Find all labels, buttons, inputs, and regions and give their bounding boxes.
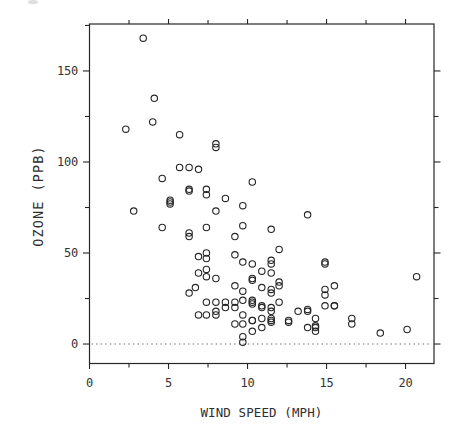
data-point: [249, 179, 255, 185]
tick-label: 20: [399, 376, 413, 390]
data-point: [259, 284, 265, 290]
data-point: [150, 119, 156, 125]
data-point: [203, 299, 209, 305]
data-point: [240, 321, 246, 327]
tick-label: 0: [71, 337, 78, 351]
data-point: [232, 321, 238, 327]
data-point: [159, 224, 165, 230]
data-point: [268, 270, 274, 276]
tick-label: 0: [86, 376, 93, 390]
data-point: [232, 252, 238, 258]
data-point: [268, 226, 274, 232]
data-point: [186, 164, 192, 170]
data-point: [213, 208, 219, 214]
tick-label: 10: [240, 376, 254, 390]
x-axis-title: WIND SPEED (MPH): [89, 406, 434, 419]
data-point: [203, 266, 209, 272]
data-point: [203, 312, 209, 318]
data-point: [151, 95, 157, 101]
data-point: [186, 290, 192, 296]
data-point: [195, 166, 201, 172]
data-point: [240, 288, 246, 294]
ozone-wind-scatter-plot: 05101520050100150: [0, 0, 465, 437]
data-point: [377, 330, 383, 336]
data-point: [131, 208, 137, 214]
data-point: [192, 284, 198, 290]
plot-frame: [90, 24, 435, 364]
scan-smudge: [28, 0, 38, 4]
data-point: [249, 317, 255, 323]
data-point: [259, 315, 265, 321]
data-point: [322, 303, 328, 309]
data-point: [295, 308, 301, 314]
data-point: [176, 132, 182, 138]
data-point: [249, 328, 255, 334]
data-point: [240, 203, 246, 209]
data-point: [304, 212, 310, 218]
data-point: [240, 259, 246, 265]
tick-label: 5: [165, 376, 172, 390]
scatter-figure: 05101520050100150 WIND SPEED (MPH) OZONE…: [0, 0, 465, 437]
data-point: [195, 312, 201, 318]
data-point: [195, 270, 201, 276]
data-point: [140, 35, 146, 41]
data-point: [240, 297, 246, 303]
data-point: [232, 233, 238, 239]
tick-label: 50: [64, 246, 78, 260]
data-point: [195, 253, 201, 259]
data-point: [123, 126, 129, 132]
data-point: [213, 299, 219, 305]
data-point: [240, 312, 246, 318]
data-point: [249, 261, 255, 267]
data-point: [203, 224, 209, 230]
data-point: [240, 223, 246, 229]
data-point: [159, 175, 165, 181]
tick-label: 100: [57, 155, 78, 169]
data-point: [404, 326, 410, 332]
data-point: [259, 268, 265, 274]
data-point: [222, 195, 228, 201]
data-point: [312, 315, 318, 321]
data-point: [331, 303, 337, 309]
data-point: [304, 324, 310, 330]
data-point: [331, 283, 337, 289]
data-point: [276, 299, 282, 305]
data-point: [276, 246, 282, 252]
tick-label: 150: [57, 64, 78, 78]
data-point: [232, 283, 238, 289]
data-point: [413, 274, 419, 280]
data-point: [213, 275, 219, 281]
data-point: [259, 324, 265, 330]
data-point: [203, 274, 209, 280]
data-point: [176, 164, 182, 170]
y-axis-title: OZONE (PPB): [30, 86, 46, 306]
tick-label: 15: [320, 376, 334, 390]
